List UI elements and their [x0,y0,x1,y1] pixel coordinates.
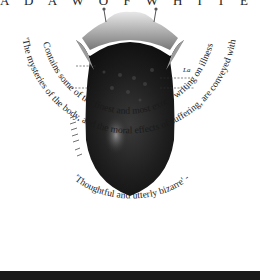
illustration-label: La [182,66,191,74]
book-back-cover: A D A W O F W H I T E S P A C E [0,0,260,280]
cover-artwork: La Contains some of the finest and most … [0,0,260,280]
bottom-bar [0,271,260,280]
